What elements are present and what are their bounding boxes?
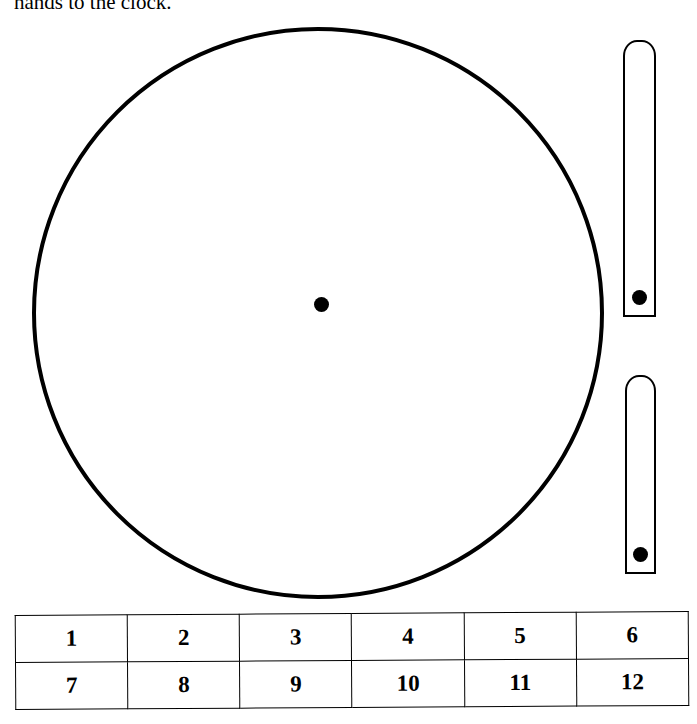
clock-face-circle <box>32 27 604 599</box>
clock-center-pivot-dot <box>314 297 329 312</box>
number-cell: 4 <box>352 613 464 661</box>
number-cell: 12 <box>576 658 689 706</box>
hour-hand-pivot-dot <box>633 547 648 562</box>
table-row: 7 8 9 10 11 12 <box>16 658 689 709</box>
number-cell: 2 <box>127 614 239 662</box>
minute-hand-cutout <box>623 40 656 317</box>
number-cell: 7 <box>16 662 128 710</box>
number-cell: 10 <box>352 660 464 708</box>
number-cell: 6 <box>576 611 689 659</box>
minute-hand-pivot-dot <box>632 290 647 305</box>
number-cell: 9 <box>240 661 352 709</box>
hour-hand-cutout <box>625 375 656 574</box>
intro-text: hands to the clock. <box>14 0 171 14</box>
number-cell: 8 <box>128 661 240 709</box>
number-cell: 3 <box>240 614 352 662</box>
table-row: 1 2 3 4 5 6 <box>15 611 688 662</box>
clock-numbers-table: 1 2 3 4 5 6 7 8 9 10 11 12 <box>15 611 690 710</box>
number-cell: 11 <box>464 659 576 707</box>
number-cell: 1 <box>15 615 127 663</box>
number-cell: 5 <box>464 612 576 660</box>
